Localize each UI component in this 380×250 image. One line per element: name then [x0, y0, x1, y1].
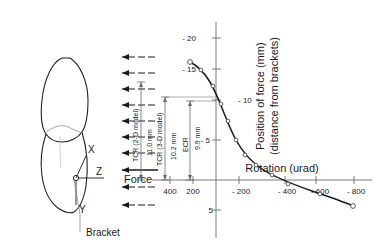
y-tick-label-15: - 15 — [182, 65, 196, 74]
force-arrow-row — [122, 70, 155, 76]
x-ticks: 400 200 - 200 - 400 - 600 - 800 — [163, 176, 365, 196]
annotation-tcr-3d-value: 10.2 mm — [170, 133, 177, 160]
data-point — [351, 204, 356, 209]
data-point — [188, 60, 193, 65]
x-tick-label-neg200: - 200 — [232, 187, 251, 196]
y-axis-title: Position of force (mm) — [254, 42, 266, 150]
force-arrow-row — [122, 86, 155, 92]
y-tick-label-10: - 10 — [238, 96, 252, 105]
x-tick-label-400: 400 — [163, 187, 177, 196]
data-point — [219, 102, 223, 106]
tooth-diagram — [41, 58, 88, 213]
y-tick-label-20: - 20 — [182, 34, 196, 43]
x-tick-label-neg400: - 400 — [278, 187, 297, 196]
x-tick-label-200: 200 — [186, 187, 200, 196]
axis-x-line — [76, 156, 86, 178]
y-tick-label-neg5: 5 — [209, 206, 214, 215]
tooth-pulp-line — [60, 136, 61, 168]
annotation-tcr-2d-name: TCR (2-D model) — [132, 109, 140, 162]
y-tick-label-5: - 5 — [201, 136, 211, 145]
data-point — [234, 138, 238, 142]
tooth-cej-line — [45, 126, 83, 133]
bracket-label: Bracket — [86, 227, 120, 238]
data-point — [254, 163, 258, 167]
tooth-root-outline — [41, 132, 87, 213]
data-point — [318, 192, 322, 196]
axis-label-z: Z — [96, 166, 102, 177]
x-tick-label-neg800: - 800 — [347, 187, 366, 196]
annotation-tcr-3d-name: TCR (3-D model) — [156, 113, 164, 166]
data-point — [211, 84, 215, 88]
force-label: Force — [124, 173, 152, 185]
force-arrow-row — [122, 54, 155, 60]
data-point — [226, 119, 230, 123]
tooth-crown-outline — [41, 58, 88, 142]
data-point — [270, 173, 274, 177]
force-arrow-row — [122, 202, 155, 208]
data-point — [286, 182, 290, 186]
annotation-tcr-2d-value: 11.0 mm — [146, 129, 153, 156]
axis-label-x: X — [88, 144, 95, 155]
y-axis-subtitle: (distance from brackets) — [268, 37, 280, 155]
annotation-tcr-2d: TCR (2-D model) 11.0 mm — [132, 82, 153, 180]
data-point — [199, 68, 203, 72]
annotation-ecr-name: ECR — [182, 137, 189, 152]
figure-svg: X Z Y Bracket — [0, 0, 380, 250]
force-arrow-row — [122, 102, 155, 108]
data-point — [243, 153, 247, 157]
figure-root: X Z Y Bracket — [0, 0, 380, 250]
annotation-ecr: ECR 9.9 mm — [182, 101, 216, 180]
